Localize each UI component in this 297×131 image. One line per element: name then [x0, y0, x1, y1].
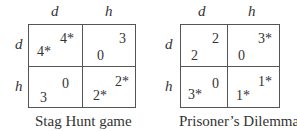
- cell-dd-row-payoff: 2: [191, 49, 198, 63]
- cell-hh-col-payoff: 2*: [115, 75, 129, 89]
- cell-dd-row-payoff: 4*: [37, 45, 51, 59]
- stag-hunt-caption: Stag Hunt game: [35, 114, 132, 129]
- row-label-d: d: [15, 37, 23, 52]
- payoff-grid: 4* 4* 3 0 0 3 2* 2*: [28, 24, 136, 108]
- cell-hh-col-payoff: 1*: [258, 75, 272, 89]
- cell-hh-row-payoff: 2*: [93, 89, 107, 103]
- prisoners-dilemma-caption: Prisoner’s Dilemma: [179, 114, 297, 129]
- cell-dh-row-payoff: 0: [238, 49, 245, 63]
- row-label-d: d: [165, 37, 173, 52]
- col-label-d: d: [198, 4, 206, 19]
- cell-hd-row-payoff: 3*: [188, 88, 202, 102]
- payoff-grid: 2 2 3* 0 0 3* 1* 1*: [180, 24, 280, 108]
- prisoners-dilemma-matrix: d h d h 2 2 3* 0 0 3* 1* 1* Prisoner’s D…: [147, 0, 297, 131]
- cell-dh-col-payoff: 3: [119, 32, 126, 46]
- cell-hh-row-payoff: 1*: [236, 89, 250, 103]
- cell-dh-row-payoff: 0: [97, 49, 104, 63]
- cell-hd-col-payoff: 0: [212, 77, 219, 91]
- cell-dd-col-payoff: 4*: [60, 32, 74, 46]
- col-label-h: h: [105, 4, 113, 19]
- cell-hd-row-payoff: 3: [40, 91, 47, 105]
- stag-hunt-matrix: d h d h 4* 4* 3 0 0 3 2* 2* Stag Hunt ga…: [0, 0, 150, 131]
- grid-divider-horizontal: [29, 66, 135, 67]
- cell-dh-col-payoff: 3*: [258, 32, 272, 46]
- col-label-d: d: [51, 4, 59, 19]
- grid-divider-horizontal: [181, 66, 279, 67]
- cell-hd-col-payoff: 0: [62, 77, 69, 91]
- row-label-h: h: [15, 79, 23, 94]
- cell-dd-col-payoff: 2: [212, 32, 219, 46]
- row-label-h: h: [165, 79, 173, 94]
- col-label-h: h: [248, 4, 256, 19]
